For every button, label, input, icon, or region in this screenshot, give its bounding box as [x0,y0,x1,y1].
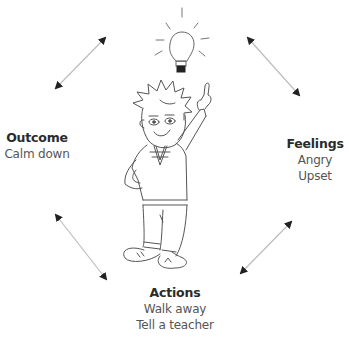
outcome-title: Outcome [2,130,72,146]
feelings-line-2: Upset [280,168,349,184]
lightbulb-icon [155,8,209,72]
node-feelings: Feelings Angry Upset [280,136,349,184]
arrow-top-right [248,38,299,95]
arrow-top-left [56,38,105,88]
node-outcome: Outcome Calm down [2,130,72,162]
feelings-line-1: Angry [280,152,349,168]
arrow-bottom-left [56,215,106,279]
arrow-bottom-right [241,222,291,273]
actions-line-2: Tell a teacher [115,317,235,333]
node-actions: Actions Walk away Tell a teacher [115,285,235,333]
actions-title: Actions [115,285,235,301]
actions-line-1: Walk away [115,301,235,317]
outcome-line-1: Calm down [2,146,72,162]
feelings-title: Feelings [280,136,349,152]
boy-figure [124,80,211,268]
thinking-cycle-diagram: Outcome Calm down Feelings Angry Upset A… [0,0,349,340]
